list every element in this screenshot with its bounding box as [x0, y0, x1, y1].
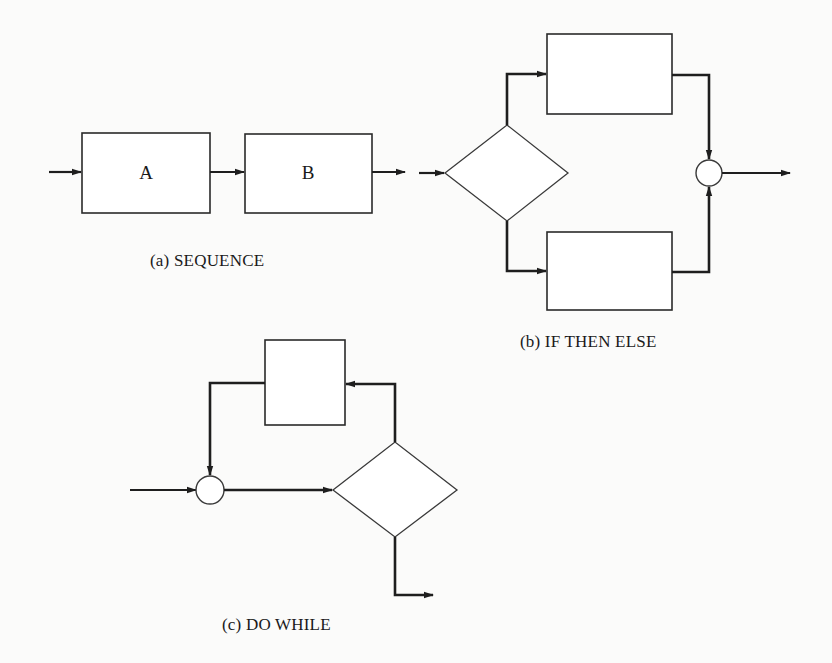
dowhile-exit-arrow [395, 537, 433, 595]
ite-else-to-join [672, 187, 709, 272]
structured-programming-diagram: A B [0, 0, 832, 663]
ite-then-to-join [672, 75, 709, 159]
dowhile-body-to-join [210, 383, 265, 475]
caption-sequence: (a) SEQUENCE [150, 251, 264, 271]
dowhile-body-block [265, 340, 345, 425]
dowhile-decision-diamond [333, 442, 457, 537]
dowhile-join-circle [196, 476, 224, 504]
caption-if-then-else: (b) IF THEN ELSE [520, 332, 657, 352]
ite-then-block [547, 34, 672, 114]
sequence-panel: A B [49, 133, 405, 213]
sequence-block-a-label: A [139, 162, 153, 183]
ite-then-path [507, 74, 546, 125]
ite-else-path [507, 221, 546, 271]
dowhile-loop-to-body [346, 384, 395, 442]
do-while-panel [130, 340, 457, 595]
ite-else-block [547, 232, 672, 310]
ite-decision-diamond [445, 125, 568, 221]
ite-join-circle [696, 160, 722, 186]
if-then-else-panel [419, 34, 790, 310]
sequence-block-b-label: B [302, 162, 315, 183]
caption-do-while: (c) DO WHILE [222, 615, 331, 635]
